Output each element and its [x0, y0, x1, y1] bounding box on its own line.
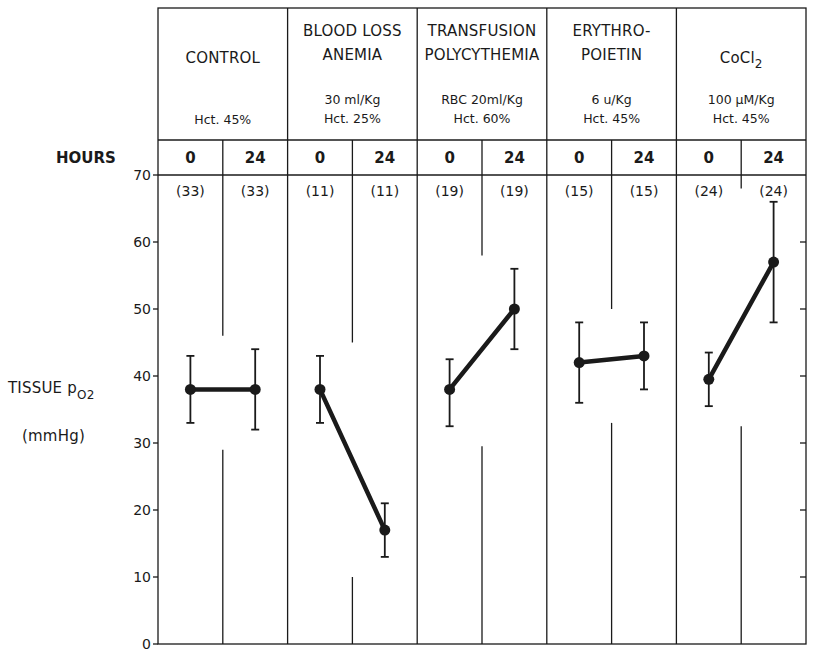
y-tick-label: 60 — [133, 234, 151, 250]
group-header-2: TRANSFUSIONPOLYCYTHEMIARBC 20ml/KgHct. 6… — [425, 22, 540, 126]
data-point — [768, 257, 779, 268]
sample-size: (24) — [694, 183, 723, 199]
hours-cell: 0 — [185, 149, 195, 167]
sample-size: (33) — [176, 183, 205, 199]
data-point — [574, 357, 585, 368]
group-detail: 100 µM/Kg — [708, 92, 775, 107]
hours-cell: 24 — [374, 149, 395, 167]
group-header-0: CONTROLHct. 45% — [185, 49, 260, 127]
hours-cell: 0 — [574, 149, 584, 167]
data-point — [185, 384, 196, 395]
group-name: CoCl2 — [720, 49, 763, 71]
group-detail: Hct. 60% — [454, 111, 511, 126]
y-axis: 010203040506070 — [133, 167, 806, 652]
group-detail: RBC 20ml/Kg — [441, 92, 523, 107]
group-name: TRANSFUSION — [427, 22, 537, 40]
data-point — [703, 374, 714, 385]
hours-cell: 0 — [315, 149, 325, 167]
sample-size: (15) — [565, 183, 594, 199]
hours-cell: 24 — [634, 149, 655, 167]
sample-size: (19) — [500, 183, 529, 199]
sample-size: (15) — [630, 183, 659, 199]
sample-size: (11) — [306, 183, 335, 199]
group-name: POIETIN — [581, 46, 642, 64]
series-2 — [444, 269, 520, 426]
group-header-4: CoCl2100 µM/KgHct. 45% — [708, 49, 775, 126]
data-point — [250, 384, 261, 395]
hours-cell: 0 — [444, 149, 454, 167]
group-header-table: CONTROLHct. 45%024BLOOD LOSSANEMIA30 ml/… — [185, 22, 784, 167]
y-tick-label: 0 — [142, 636, 151, 652]
group-detail: Hct. 25% — [324, 111, 381, 126]
group-name: CONTROL — [185, 49, 260, 67]
series-4 — [703, 202, 779, 406]
data-point — [379, 525, 390, 536]
data-point — [639, 350, 650, 361]
y-tick-label: 50 — [133, 301, 151, 317]
group-name: ERYTHRO- — [572, 22, 650, 40]
sample-size: (33) — [241, 183, 270, 199]
series-0 — [185, 349, 261, 429]
y-axis-label: TISSUE pO2 (mmHg) — [7, 379, 94, 445]
group-detail: Hct. 45% — [713, 111, 770, 126]
group-header-3: ERYTHRO-POIETIN6 u/KgHct. 45% — [572, 22, 650, 126]
data-point — [444, 384, 455, 395]
y-tick-label: 70 — [133, 167, 151, 183]
y-tick-label: 10 — [133, 569, 151, 585]
series-3 — [574, 322, 650, 402]
hours-label: HOURS — [56, 149, 116, 167]
hours-cell: 24 — [763, 149, 784, 167]
y-tick-label: 20 — [133, 502, 151, 518]
data-point — [315, 384, 326, 395]
hours-cell: 0 — [704, 149, 714, 167]
group-detail: Hct. 45% — [583, 111, 640, 126]
group-detail: 30 ml/Kg — [324, 92, 380, 107]
tissue-po2-chart: CONTROLHct. 45%024BLOOD LOSSANEMIA30 ml/… — [0, 0, 816, 655]
hours-cell: 24 — [245, 149, 266, 167]
group-header-1: BLOOD LOSSANEMIA30 ml/KgHct. 25% — [303, 22, 402, 126]
y-axis-title: TISSUE pO2 — [7, 379, 94, 402]
sample-size: (19) — [435, 183, 464, 199]
hours-cell: 24 — [504, 149, 525, 167]
group-detail: 6 u/Kg — [591, 92, 631, 107]
group-name: BLOOD LOSS — [303, 22, 402, 40]
group-name: POLYCYTHEMIA — [425, 46, 540, 64]
series-1 — [315, 356, 391, 557]
y-tick-label: 40 — [133, 368, 151, 384]
y-axis-unit: (mmHg) — [22, 427, 85, 445]
data-point — [509, 304, 520, 315]
group-name: ANEMIA — [323, 46, 383, 64]
group-detail: Hct. 45% — [194, 112, 251, 127]
sample-size: (11) — [370, 183, 399, 199]
y-tick-label: 30 — [133, 435, 151, 451]
sample-size: (24) — [759, 183, 788, 199]
